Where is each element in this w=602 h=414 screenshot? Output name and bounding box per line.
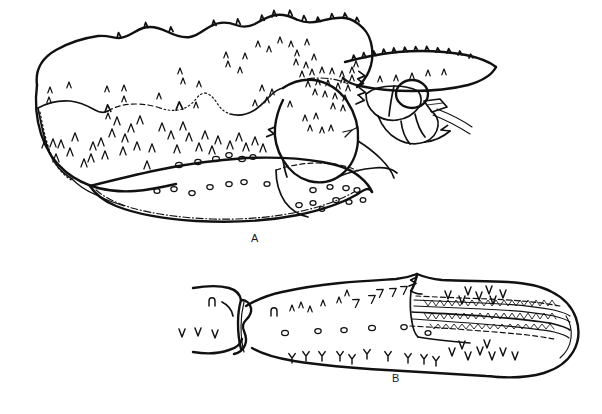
figure-b-label: B [392, 372, 400, 384]
plate-drawing: .ol { fill:none; stroke:#111111; stroke-… [0, 0, 602, 414]
figure-a-label: A [251, 232, 259, 244]
illustration-plate: .ol { fill:none; stroke:#111111; stroke-… [0, 0, 602, 414]
